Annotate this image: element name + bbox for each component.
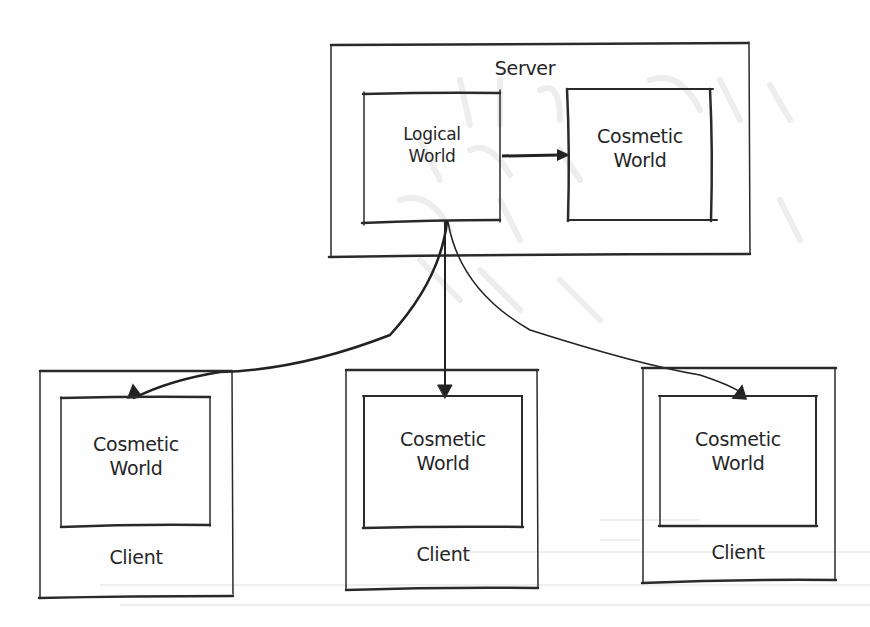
client-1-cosmetic-world-line1: Cosmetic [64, 432, 208, 456]
diagram-canvas [0, 0, 870, 627]
client-1-title: Client [64, 545, 208, 569]
client-2-cosmetic-world-label: Cosmetic World [366, 427, 520, 476]
client-1-cosmetic-world-label: Cosmetic World [64, 432, 208, 481]
client-2-cosmetic-world-line1: Cosmetic [366, 427, 520, 451]
paper-bleed-through [400, 78, 800, 320]
client-3-cosmetic-world-line1: Cosmetic [662, 427, 814, 451]
client-2-cosmetic-world-line2: World [366, 451, 520, 475]
client-3-cosmetic-world-label: Cosmetic World [662, 427, 814, 476]
logical-world-label: Logical World [366, 124, 498, 168]
server-cosmetic-world-line2: World [572, 148, 708, 172]
server-cosmetic-world-label: Cosmetic World [572, 124, 708, 173]
client-1-cosmetic-world-line2: World [64, 456, 208, 480]
logical-world-line1: Logical [366, 124, 498, 146]
client-3-title: Client [662, 540, 814, 564]
client-3-cosmetic-world-line2: World [662, 451, 814, 475]
logical-world-line2: World [366, 146, 498, 168]
arrow-logical-to-cosmetic [502, 149, 570, 161]
arrow-to-client-3 [448, 222, 746, 399]
client-2-title: Client [366, 542, 520, 566]
server-title: Server [470, 56, 580, 80]
server-cosmetic-world-line1: Cosmetic [572, 124, 708, 148]
arrow-to-client-2 [438, 222, 452, 398]
